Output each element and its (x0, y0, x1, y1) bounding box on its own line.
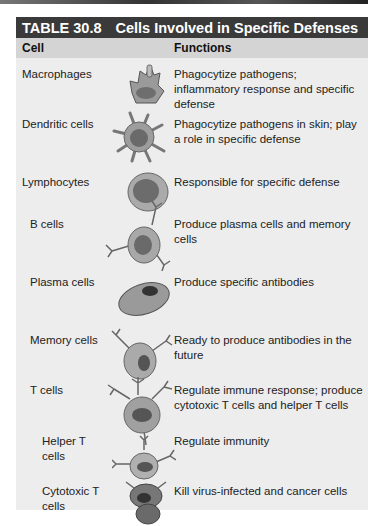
header-functions: Functions (174, 41, 231, 55)
table-row: Memory cells Ready to produce antibodies… (16, 333, 368, 383)
cell-function: Regulate immunity (174, 434, 364, 449)
table-row: Cytotoxic T cells Kill virus-infected an… (16, 484, 368, 526)
dendritic-cell-icon (110, 111, 168, 163)
b-cell-icon (104, 199, 180, 271)
table-row: B cells Produce plasma cells and memory … (16, 217, 368, 272)
cytotoxic-t-cell-icon (124, 478, 170, 526)
cell-function: Regulate immune response; produce cytoto… (174, 383, 364, 413)
table-row: Plasma cells Produce specific antibodies (16, 275, 368, 325)
helper-t-cell-icon (112, 434, 176, 480)
cell-name: Lymphocytes (22, 175, 89, 190)
table-title: Cells Involved in Specific Defenses (116, 20, 359, 36)
cell-function: Ready to produce antibodies in the futur… (174, 333, 364, 363)
cell-name: B cells (30, 217, 64, 232)
cell-function: Phagocytize pathogens; inflammatory resp… (174, 67, 364, 112)
table-row: Macrophages Phagocytize pathogens; infla… (16, 67, 368, 119)
cell-function: Produce specific antibodies (174, 275, 364, 290)
cell-name: Memory cells (30, 333, 98, 348)
table-row: T cells Regulate immune response; produc… (16, 383, 368, 435)
plasma-cell-icon (116, 277, 172, 317)
table-header: Cell Functions (16, 38, 368, 58)
cell-name: Cytotoxic T cells (42, 484, 102, 514)
cell-function: Responsible for specific defense (174, 175, 364, 190)
table-row: Helper T cells Regulate immunity (16, 434, 368, 484)
cell-name: T cells (30, 383, 63, 398)
cell-function: Produce plasma cells and memory cells (174, 217, 364, 247)
cell-name: Helper T cells (42, 434, 102, 464)
cell-name: Macrophages (22, 67, 92, 82)
table-number: TABLE 30.8 (22, 20, 102, 36)
cell-name: Plasma cells (30, 275, 95, 290)
macrophage-icon (126, 63, 166, 107)
cells-table: TABLE 30.8 Cells Involved in Specific De… (16, 17, 368, 510)
cell-name: Dendritic cells (22, 117, 94, 132)
cell-function: Kill virus-infected and cancer cells (174, 484, 364, 499)
cell-function: Phagocytize pathogens in skin; play a ro… (174, 117, 364, 147)
table-title-bar: TABLE 30.8 Cells Involved in Specific De… (16, 17, 368, 38)
table-row: Dendritic cells Phagocytize pathogens in… (16, 117, 368, 169)
top-border-strip (0, 0, 368, 4)
table-row: Lymphocytes Responsible for specific def… (16, 175, 368, 215)
header-cell: Cell (22, 41, 44, 55)
